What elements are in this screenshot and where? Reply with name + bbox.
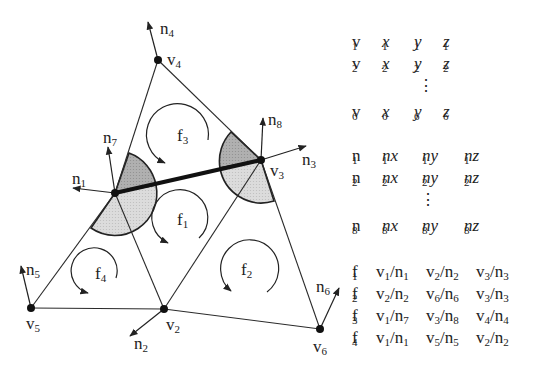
label-n1: n1 [72,169,86,189]
diagram-labels: n4 v4 n7 n1 n8 n3 v3 n5 v5 v2 n2 n6 v6 f… [26,19,331,357]
label-v5: v5 [26,314,41,334]
label-v6: v6 [313,337,328,357]
normal-n7 [108,147,115,193]
label-n5: n5 [26,260,41,280]
normal-n8 [261,118,263,160]
normal-n1 [73,188,115,193]
label-f3: f3 [177,126,189,146]
label-f1: f1 [177,210,188,230]
vertex-v2 [160,305,168,313]
winding-f2 [221,240,279,292]
vertex-v3 [257,156,265,164]
label-n8: n8 [268,110,283,130]
label-v2: v2 [166,315,180,335]
vertex-v1 [111,189,119,197]
label-f4: f4 [95,264,107,284]
label-v3: v3 [270,161,285,181]
label-n3: n3 [302,150,317,170]
label-n6: n6 [316,277,331,297]
normal-n2 [130,309,164,336]
mesh-edges [31,60,320,329]
vertex-v5 [27,304,35,312]
vertex-v6 [316,325,324,333]
label-n4: n4 [160,19,175,39]
vertex-v4 [154,56,162,64]
normal-n4 [148,22,158,60]
label-v4: v4 [167,50,182,70]
normal-n3 [261,146,306,160]
label-n2: n2 [134,334,148,354]
label-n7: n7 [103,128,118,148]
label-f2: f2 [241,260,252,280]
